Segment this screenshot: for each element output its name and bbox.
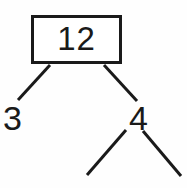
child-node-value-right: 4 [129,101,148,135]
edge-root-to-right [104,65,137,101]
root-node-value: 12 [31,22,122,55]
edge-right-to-lower-left [87,130,126,175]
factor-tree-diagram: 12 3 4 [0,0,187,188]
edge-right-to-lower-right [143,131,181,176]
child-node-value-left: 3 [3,101,22,135]
edge-root-to-left [18,65,50,100]
